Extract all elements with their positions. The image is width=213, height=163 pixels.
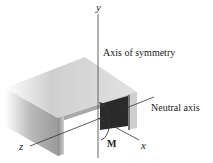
x-axis-label: x	[140, 139, 146, 151]
y-axis-label: y	[95, 1, 101, 13]
moment-label: M	[107, 138, 117, 149]
neutral-axis-label: Neutral axis	[151, 102, 200, 113]
beam-left-flange	[58, 116, 64, 156]
beam-right-flange-edge	[128, 95, 130, 131]
z-axis-label: z	[18, 140, 24, 152]
channel-beam	[5, 57, 137, 156]
channel-beam-diagram: y Axis of symmetry Neutral axis z M x	[0, 0, 213, 163]
axis-of-symmetry-label: Axis of symmetry	[103, 47, 175, 58]
